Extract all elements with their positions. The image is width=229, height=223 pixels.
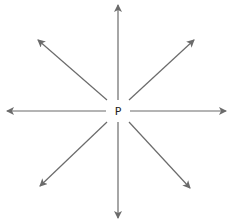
arrow-down-left-icon [40,122,107,186]
arrow-down-right-icon [129,122,190,188]
arrow-up-left-icon [38,40,107,100]
arrow-up-right-icon [129,40,194,100]
radiating-arrows-diagram: P [0,0,229,223]
center-point-label: P [115,105,122,118]
